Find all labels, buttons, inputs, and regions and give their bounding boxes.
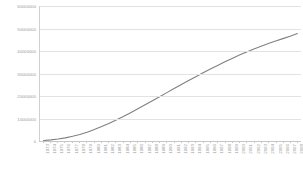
x-tick-mark: [225, 141, 226, 143]
x-tick-label: 1998: [227, 144, 232, 154]
y-tick-label: 20000000: [17, 94, 36, 99]
x-tick-label: 1977: [74, 144, 79, 154]
y-tick-label: 60000000: [17, 4, 36, 9]
gridline: [40, 6, 301, 7]
x-tick-label: 1999: [234, 144, 239, 154]
x-tick-label: 2006: [285, 144, 290, 154]
x-tick-mark: [123, 141, 124, 143]
x-tick-label: 1983: [117, 144, 122, 154]
y-axis: 6000000050000000400000003000000020000000…: [0, 0, 38, 141]
x-tick-mark: [174, 141, 175, 143]
gridline: [40, 51, 301, 52]
x-tick-mark: [261, 141, 262, 143]
plot-area: [39, 6, 301, 141]
x-tick-mark: [181, 141, 182, 143]
x-tick-label: 1989: [161, 144, 166, 154]
y-tick-label: 40000000: [17, 49, 36, 54]
x-tick-mark: [86, 141, 87, 143]
x-tick-mark: [232, 141, 233, 143]
x-tick-mark: [64, 141, 65, 143]
x-tick-label: 2008: [299, 144, 303, 154]
x-tick-label: 1973: [45, 144, 50, 154]
x-tick-mark: [50, 141, 51, 143]
x-tick-label: 1987: [147, 144, 152, 154]
x-tick-mark: [137, 141, 138, 143]
x-tick-mark: [290, 141, 291, 143]
x-tick-mark: [130, 141, 131, 143]
gridline: [40, 74, 301, 75]
x-tick-mark: [283, 141, 284, 143]
x-tick-mark: [239, 141, 240, 143]
x-tick-mark: [43, 141, 44, 143]
x-tick-label: 1980: [96, 144, 101, 154]
x-tick-label: 2005: [278, 144, 283, 154]
x-tick-label: 1997: [219, 144, 224, 154]
y-tick-label: 30000000: [17, 71, 36, 76]
x-tick-label: 1978: [81, 144, 86, 154]
x-tick-label: 1982: [110, 144, 115, 154]
x-tick-label: 1992: [183, 144, 188, 154]
x-axis: 1973197419751976197719781979198019811982…: [39, 144, 301, 176]
x-tick-label: 1996: [212, 144, 217, 154]
x-tick-mark: [57, 141, 58, 143]
gridline: [40, 29, 301, 30]
x-tick-mark: [195, 141, 196, 143]
x-tick-mark: [159, 141, 160, 143]
x-tick-label: 1986: [139, 144, 144, 154]
x-tick-mark: [94, 141, 95, 143]
x-tick-mark: [188, 141, 189, 143]
gridline: [40, 119, 301, 120]
line-chart: 6000000050000000400000003000000020000000…: [0, 0, 303, 176]
x-tick-mark: [72, 141, 73, 143]
x-tick-label: 1995: [205, 144, 210, 154]
x-tick-mark: [254, 141, 255, 143]
x-tick-mark: [203, 141, 204, 143]
x-tick-label: 1984: [125, 144, 130, 154]
x-tick-mark: [101, 141, 102, 143]
x-tick-mark: [108, 141, 109, 143]
x-tick-label: 1976: [66, 144, 71, 154]
x-tick-mark: [152, 141, 153, 143]
x-tick-mark: [145, 141, 146, 143]
x-tick-mark: [79, 141, 80, 143]
x-tick-label: 1981: [103, 144, 108, 154]
x-tick-label: 1993: [190, 144, 195, 154]
series-polyline: [44, 33, 298, 140]
x-tick-label: 1979: [88, 144, 93, 154]
x-tick-mark: [276, 141, 277, 143]
x-tick-mark: [115, 141, 116, 143]
x-tick-mark: [210, 141, 211, 143]
gridline: [40, 96, 301, 97]
x-tick-label: 1975: [59, 144, 64, 154]
x-tick-label: 2007: [292, 144, 297, 154]
x-tick-label: 1974: [52, 144, 57, 154]
x-tick-label: 1985: [132, 144, 137, 154]
x-tick-mark: [166, 141, 167, 143]
x-tick-label: 1994: [197, 144, 202, 154]
x-tick-label: 2001: [248, 144, 253, 154]
y-tick-label: 0: [34, 139, 36, 144]
x-tick-label: 2000: [241, 144, 246, 154]
x-tick-label: 1988: [154, 144, 159, 154]
x-tick-mark: [217, 141, 218, 143]
y-tick-label: 50000000: [17, 26, 36, 31]
x-tick-mark: [297, 141, 298, 143]
x-tick-label: 1990: [168, 144, 173, 154]
x-tick-mark: [268, 141, 269, 143]
x-tick-label: 2002: [256, 144, 261, 154]
x-tick-label: 2003: [263, 144, 268, 154]
x-tick-mark: [246, 141, 247, 143]
x-tick-label: 2004: [270, 144, 275, 154]
y-tick-label: 10000000: [17, 116, 36, 121]
x-tick-label: 1991: [176, 144, 181, 154]
